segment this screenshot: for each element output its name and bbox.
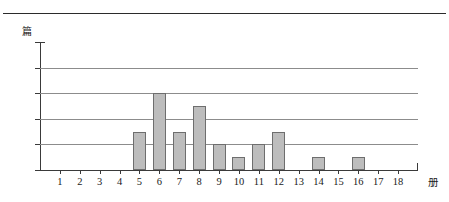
plot-area — [40, 42, 418, 170]
gridline-8 — [40, 68, 418, 69]
x-tick — [378, 170, 379, 174]
x-tick — [319, 170, 320, 174]
y-tick — [35, 144, 40, 145]
bar — [213, 144, 226, 170]
x-tick — [358, 170, 359, 174]
bar — [272, 132, 285, 170]
x-tick-label: 17 — [367, 176, 389, 188]
bar — [193, 106, 206, 170]
x-tick-label: 2 — [69, 176, 91, 188]
bar — [252, 144, 265, 170]
bar-chart: 篇 0246810 123456789101112131415161718 册 — [0, 0, 449, 202]
x-tick — [239, 170, 240, 174]
x-tick — [219, 170, 220, 174]
x-tick-label: 3 — [89, 176, 111, 188]
bar — [232, 157, 245, 170]
x-tick — [299, 170, 300, 174]
x-tick-label: 6 — [148, 176, 170, 188]
y-axis-unit-label: 篇 — [22, 26, 32, 37]
x-axis-line — [40, 170, 418, 171]
x-axis-unit-label: 册 — [428, 176, 438, 188]
x-tick-label: 5 — [128, 176, 150, 188]
bar — [173, 132, 186, 170]
x-tick — [139, 170, 140, 174]
x-tick — [159, 170, 160, 174]
x-tick-label: 9 — [208, 176, 230, 188]
x-tick — [100, 170, 101, 174]
x-tick — [338, 170, 339, 174]
x-tick-label: 8 — [188, 176, 210, 188]
gridline-6 — [40, 93, 418, 94]
y-tick — [35, 93, 40, 94]
x-tick — [279, 170, 280, 174]
x-tick — [259, 170, 260, 174]
x-tick-label: 7 — [168, 176, 190, 188]
x-tick-label: 11 — [248, 176, 270, 188]
bar — [153, 93, 166, 170]
x-tick-label: 15 — [327, 176, 349, 188]
gridline-2 — [40, 144, 418, 145]
x-tick-label: 14 — [308, 176, 330, 188]
x-tick-label: 1 — [49, 176, 71, 188]
x-tick-label: 10 — [228, 176, 250, 188]
y-tick — [35, 68, 40, 69]
bar — [133, 132, 146, 170]
x-tick-label: 12 — [268, 176, 290, 188]
x-tick-label: 13 — [288, 176, 310, 188]
gridline-4 — [40, 119, 418, 120]
chart-page: 篇 0246810 123456789101112131415161718 册 — [0, 0, 449, 202]
x-tick — [120, 170, 121, 174]
y-tick — [35, 42, 40, 43]
x-tick-label: 16 — [347, 176, 369, 188]
x-tick-label: 4 — [109, 176, 131, 188]
x-tick — [199, 170, 200, 174]
x-tick — [179, 170, 180, 174]
bar — [352, 157, 365, 170]
x-tick — [398, 170, 399, 174]
x-tick — [60, 170, 61, 174]
x-tick-label: 18 — [387, 176, 409, 188]
x-tick — [80, 170, 81, 174]
y-tick — [35, 170, 40, 171]
y-tick — [35, 119, 40, 120]
bar — [312, 157, 325, 170]
